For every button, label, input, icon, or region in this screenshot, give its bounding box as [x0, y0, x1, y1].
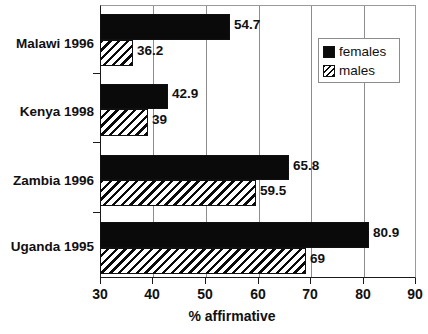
tick-label-90: 90 — [407, 286, 423, 302]
tick-mark-90 — [415, 278, 416, 284]
bar-females-malawi-1996 — [100, 14, 230, 40]
tick-label-70: 70 — [302, 286, 318, 302]
bar-value-males-uganda-1995: 69 — [310, 251, 325, 266]
minor-tick-malawi — [93, 73, 100, 74]
bar-value-males-kenya-1998: 39 — [152, 112, 167, 127]
bar-males-malawi-1996 — [100, 40, 133, 66]
bar-males-kenya-1998 — [100, 109, 148, 136]
minor-tick-zambia — [93, 212, 100, 213]
bar-females-kenya-1998 — [100, 84, 168, 109]
legend-entry-females: females — [323, 42, 395, 61]
tick-mark-70 — [310, 278, 311, 284]
bar-value-females-kenya-1998: 42.9 — [172, 86, 198, 101]
bar-value-females-uganda-1995: 80.9 — [373, 225, 399, 240]
bar-females-uganda-1995 — [100, 222, 369, 248]
tick-mark-80 — [363, 278, 364, 284]
bar-males-zambia-1996 — [100, 180, 256, 206]
bar-value-males-malawi-1996: 36.2 — [137, 43, 163, 58]
tick-label-80: 80 — [355, 286, 371, 302]
category-label-uganda-1995: Uganda 1995 — [0, 239, 94, 254]
bar-value-males-zambia-1996: 59.5 — [260, 183, 286, 198]
tick-mark-40 — [152, 278, 153, 284]
tick-label-40: 40 — [144, 286, 160, 302]
legend: females males — [318, 38, 400, 83]
category-label-kenya-1998: Kenya 1998 — [0, 104, 94, 119]
bar-males-uganda-1995 — [100, 248, 306, 274]
tick-mark-50 — [205, 278, 206, 284]
tick-label-50: 50 — [197, 286, 213, 302]
minor-tick-kenya — [93, 142, 100, 143]
tick-label-60: 60 — [250, 286, 266, 302]
category-label-malawi-1996: Malawi 1996 — [0, 36, 94, 51]
x-axis-title: % affirmative — [0, 308, 428, 324]
solid-square-icon — [323, 46, 335, 58]
tick-label-30: 30 — [92, 286, 108, 302]
tick-mark-30 — [100, 278, 101, 284]
hatched-square-icon — [323, 65, 335, 77]
bar-females-zambia-1996 — [100, 155, 289, 180]
legend-label-males: males — [339, 63, 375, 78]
tick-mark-60 — [258, 278, 259, 284]
bar-value-females-malawi-1996: 54.7 — [234, 17, 260, 32]
legend-label-females: females — [339, 44, 386, 59]
bar-value-females-zambia-1996: 65.8 — [293, 158, 319, 173]
bar-chart: Malawi 1996 54.7 36.2 Kenya 1998 42.9 39… — [0, 0, 428, 334]
legend-entry-males: males — [323, 61, 395, 80]
category-label-zambia-1996: Zambia 1996 — [0, 173, 94, 188]
